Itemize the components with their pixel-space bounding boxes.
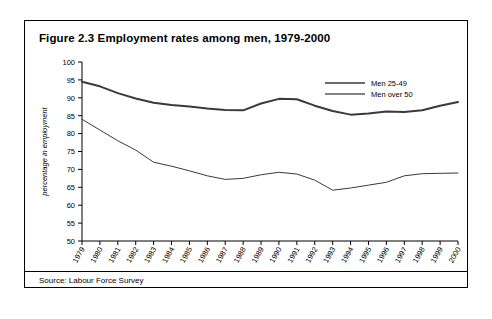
x-tick-label: 1982	[124, 246, 140, 265]
y-tick-label: 95	[67, 76, 75, 85]
x-tick-label: 1986	[196, 246, 212, 265]
y-tick-label: 70	[67, 165, 75, 174]
x-tick-label: 1999	[429, 246, 445, 265]
x-tick-label: 1997	[393, 246, 409, 265]
y-tick-label: 85	[67, 112, 75, 121]
x-tick-label: 1990	[268, 246, 284, 265]
x-tick-label: 1992	[303, 246, 319, 265]
section-divider	[25, 271, 467, 272]
source-note: Source: Labour Force Survey	[39, 276, 144, 285]
x-tick-label: 1980	[88, 246, 104, 265]
legend-label-1: Men 25-49	[371, 79, 407, 88]
chart-plot-area: 50556065707580859095100percentage in emp…	[25, 21, 469, 271]
x-tick-label: 1991	[285, 246, 301, 265]
x-tick-label: 1998	[411, 246, 427, 265]
x-tick-label: 1989	[250, 246, 266, 265]
figure-container: Figure 2.3 Employment rates among men, 1…	[24, 20, 468, 288]
x-tick-label: 1981	[106, 246, 122, 265]
x-tick-label: 1987	[214, 246, 230, 265]
y-tick-label: 75	[67, 147, 75, 156]
x-tick-label: 1985	[178, 246, 194, 265]
x-tick-label: 1994	[339, 246, 355, 265]
y-tick-label: 80	[67, 129, 75, 138]
x-tick-label: 1979	[71, 246, 87, 265]
y-tick-label: 100	[62, 58, 75, 67]
x-tick-label: 1996	[375, 246, 391, 265]
y-axis-title: percentage in employment	[40, 106, 49, 196]
x-tick-label: 1995	[357, 246, 373, 265]
x-tick-label: 1988	[232, 246, 248, 265]
y-tick-label: 60	[67, 201, 75, 210]
y-tick-label: 90	[67, 94, 75, 103]
series-line-2	[82, 119, 458, 190]
employment-rates-line-chart: 50556065707580859095100percentage in emp…	[25, 21, 469, 271]
x-tick-label: 2000	[447, 246, 463, 265]
y-tick-label: 50	[67, 237, 75, 246]
legend-label-2: Men over 50	[371, 90, 413, 99]
x-tick-label: 1993	[321, 246, 337, 265]
x-tick-label: 1984	[160, 246, 176, 265]
y-tick-label: 65	[67, 183, 75, 192]
y-tick-label: 55	[67, 219, 75, 228]
x-tick-label: 1983	[142, 246, 158, 265]
